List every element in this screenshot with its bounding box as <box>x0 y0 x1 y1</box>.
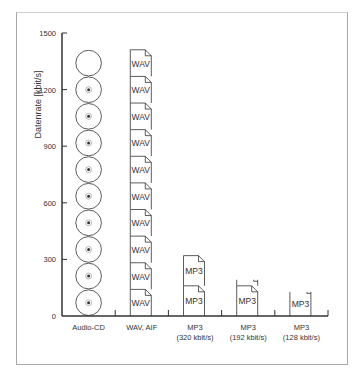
x-tick-label-sub: (128 kbit/s) <box>283 333 321 342</box>
cd-hole <box>87 301 90 304</box>
cd-hole <box>87 168 90 171</box>
document-icon-label: MP3 <box>185 266 203 276</box>
document-icon-label: WAV <box>132 112 151 122</box>
document-icon-label: WAV <box>132 138 151 148</box>
cd-icon <box>76 50 102 76</box>
document-icon-label: WAV <box>132 298 151 308</box>
document-icon-label: WAV <box>132 245 151 255</box>
y-tick-label: 900 <box>43 142 56 151</box>
x-tick-label: WAV, AIF <box>126 323 157 332</box>
y-tick-label: 1500 <box>39 29 56 38</box>
document-icon-label: WAV <box>132 85 151 95</box>
bar-0 <box>76 50 102 315</box>
document-icon-label: WAV <box>132 272 151 282</box>
bar-2: MP3MP3 <box>184 256 205 316</box>
document-icon-label: WAV <box>132 165 151 175</box>
document-icon-label: WAV <box>132 192 151 202</box>
x-tick-label: Audio-CD <box>72 323 105 332</box>
document-icon-label: WAV <box>132 218 151 228</box>
cd-hole <box>87 88 90 91</box>
bar-4: MP3 <box>290 292 311 316</box>
document-icon-label: MP3 <box>185 296 203 306</box>
bar-3: MP3 <box>237 280 258 316</box>
x-tick-label: MP3 <box>187 323 202 332</box>
cd-hole <box>87 248 90 251</box>
cd-hole <box>87 195 90 198</box>
cd-hole <box>87 275 90 278</box>
x-tick-label: MP3 <box>294 323 309 332</box>
document-icon-label: MP3 <box>292 299 310 309</box>
cd-hole <box>87 141 90 144</box>
cd-hole <box>87 115 90 118</box>
bar-1: WAVWAVWAVWAVWAVWAVWAVWAVWAVWAV <box>130 50 151 316</box>
x-tick-label-sub: (320 kbit/s) <box>176 333 214 342</box>
chart: 030060090012001500Datenrate [kbit/s]Audi… <box>0 0 357 375</box>
document-icon-label: WAV <box>132 59 151 69</box>
y-tick-label: 600 <box>43 199 56 208</box>
y-tick-label: 0 <box>52 312 56 321</box>
x-tick-label-sub: (192 kbit/s) <box>230 333 268 342</box>
cd-hole <box>87 221 90 224</box>
x-tick-label: MP3 <box>240 323 255 332</box>
y-axis-label: Datenrate [kbit/s] <box>33 70 43 138</box>
document-icon <box>237 280 258 286</box>
y-tick-label: 300 <box>43 255 56 264</box>
document-icon-label: MP3 <box>238 296 256 306</box>
